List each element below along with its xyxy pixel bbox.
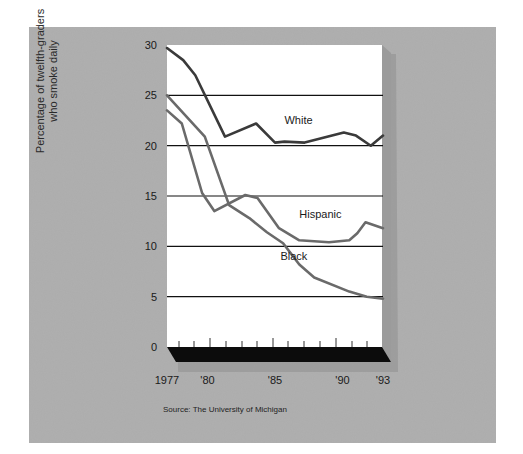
y-axis-label-line-1: Percentage of twelfth-graders <box>34 0 47 196</box>
source-note: Source: The University of Michigan <box>163 405 287 414</box>
chart-base <box>167 347 391 362</box>
y-tick-label: 20 <box>145 140 157 152</box>
y-tick-label: 15 <box>145 190 157 202</box>
x-tick-label: 1977 <box>155 374 179 386</box>
y-tick-label: 25 <box>145 89 157 101</box>
y-axis-label-line-2: who smoke daily <box>47 0 60 196</box>
y-tick-label: 0 <box>151 341 157 353</box>
chart-side-face <box>382 45 391 362</box>
y-tick-label: 30 <box>145 39 157 51</box>
x-axis-tick-labels: 1977'80'85'90'93 <box>155 374 390 386</box>
x-tick-label: '93 <box>376 374 390 386</box>
x-tick-label: '90 <box>335 374 349 386</box>
y-tick-label: 5 <box>151 291 157 303</box>
x-tick-label: '85 <box>268 374 282 386</box>
series-label-black: Black <box>280 250 307 262</box>
line-chart: 051015202530 1977'80'85'90'93 WhiteHispa… <box>0 0 523 454</box>
series-label-hispanic: Hispanic <box>299 208 342 220</box>
y-axis-label: Percentage of twelfth-graders who smoke … <box>34 0 60 196</box>
series-label-white: White <box>284 114 312 126</box>
y-tick-label: 10 <box>145 240 157 252</box>
y-axis-tick-labels: 051015202530 <box>145 39 157 353</box>
x-tick-label: '80 <box>200 374 214 386</box>
